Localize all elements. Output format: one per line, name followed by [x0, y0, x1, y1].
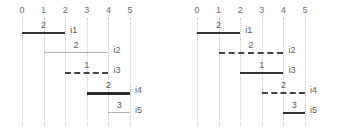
gantt-bar-value-label: 2 — [34, 20, 54, 31]
gantt-row: 2i4 — [175, 80, 350, 100]
x-axis-tick-label: 2 — [232, 5, 248, 15]
gantt-row: 2i1 — [0, 20, 175, 40]
gantt-bar-value-label: 2 — [98, 80, 118, 91]
gantt-bar — [197, 32, 240, 34]
x-axis-tick-label: 5 — [122, 5, 138, 15]
gantt-bar — [240, 72, 283, 74]
x-axis-tick-label: 3 — [79, 5, 95, 15]
gantt-row: 2i2 — [0, 40, 175, 60]
gantt-row-label: i1 — [245, 25, 252, 36]
gantt-bar-value-label: 1 — [252, 60, 272, 71]
gantt-bar — [22, 32, 65, 34]
gantt-bar — [65, 72, 108, 74]
x-axis-tick-label: 1 — [211, 5, 227, 15]
gantt-row: 2i2 — [175, 40, 350, 60]
plot-area-right: 0123452i12i21i32i43i5 — [175, 0, 350, 132]
gantt-row-label: i4 — [135, 85, 142, 96]
x-axis-tick-label: 0 — [14, 5, 30, 15]
gantt-row-label: i2 — [113, 45, 120, 56]
gantt-bar-value-label: 2 — [209, 20, 229, 31]
gantt-row: 2i1 — [175, 20, 350, 40]
two-panel-gantt-figure: 0123452i12i21i32i43i5 0123452i12i21i32i4… — [0, 0, 350, 132]
gantt-row-label: i3 — [113, 65, 120, 76]
gantt-row: 1i3 — [0, 60, 175, 80]
x-axis-tick-label: 1 — [36, 5, 52, 15]
gantt-bar-value-label: 2 — [241, 40, 261, 51]
gantt-bar-value-label: 3 — [284, 100, 304, 111]
gantt-row-label: i2 — [288, 45, 295, 56]
gantt-bar — [108, 112, 130, 113]
gantt-bar-value-label: 2 — [66, 40, 86, 51]
gantt-bar — [262, 92, 305, 94]
gantt-bar-value-label: 3 — [109, 100, 129, 111]
gantt-chart-left-panel: 0123452i12i21i32i43i5 — [0, 0, 175, 132]
x-axis-tick-label: 3 — [254, 5, 270, 15]
gantt-row-label: i1 — [70, 25, 77, 36]
gantt-bar — [44, 52, 109, 53]
gantt-row-label: i3 — [288, 65, 295, 76]
gantt-chart-right-panel: 0123452i12i21i32i43i5 — [175, 0, 350, 132]
gantt-row: 3i5 — [0, 100, 175, 120]
gantt-bar — [219, 52, 284, 54]
gantt-row: 1i3 — [175, 60, 350, 80]
gantt-row-label: i5 — [310, 105, 317, 116]
x-axis-tick-label: 5 — [297, 5, 313, 15]
gantt-row-label: i5 — [135, 105, 142, 116]
gantt-bar-value-label: 1 — [77, 60, 97, 71]
x-axis-tick-label: 2 — [57, 5, 73, 15]
gantt-bar — [87, 92, 130, 95]
gantt-row: 2i4 — [0, 80, 175, 100]
gantt-bar-value-label: 2 — [273, 80, 293, 91]
gantt-row-label: i4 — [310, 85, 317, 96]
gantt-bar — [283, 112, 305, 114]
x-axis-tick-label: 0 — [189, 5, 205, 15]
x-axis-tick-label: 4 — [100, 5, 116, 15]
x-axis-tick-label: 4 — [275, 5, 291, 15]
plot-area-left: 0123452i12i21i32i43i5 — [0, 0, 175, 132]
gantt-row: 3i5 — [175, 100, 350, 120]
